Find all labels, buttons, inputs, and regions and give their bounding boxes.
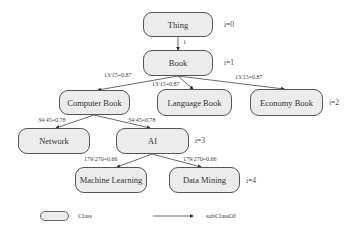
node-network: Network bbox=[18, 128, 90, 154]
node-label: Book bbox=[169, 58, 187, 68]
edge-label-book-economy: 13/15=0.87 bbox=[235, 74, 263, 80]
legend-class-swatch bbox=[40, 211, 69, 221]
node-label: Data Mining bbox=[183, 175, 226, 185]
node-data-mining: Data Mining bbox=[169, 167, 240, 193]
level-label-3: i=3 bbox=[195, 136, 205, 145]
edge-label-computer-network: 34/45=0.78 bbox=[38, 117, 66, 123]
level-label-0: i=0 bbox=[224, 20, 234, 29]
node-economy-book: Economy Book bbox=[250, 89, 323, 116]
legend-class-label: Class bbox=[78, 212, 92, 219]
level-label-1: i=1 bbox=[224, 58, 234, 67]
node-thing: Thing bbox=[143, 12, 213, 37]
node-computer-book: Computer Book bbox=[59, 90, 130, 115]
node-ai: AI bbox=[116, 128, 189, 154]
node-label: Economy Book bbox=[260, 98, 313, 108]
level-label-4: i=4 bbox=[246, 176, 256, 185]
node-label: Language Book bbox=[167, 98, 221, 108]
node-label: Thing bbox=[168, 20, 188, 30]
node-machine-learning: Machine Learning bbox=[75, 167, 147, 193]
node-language-book: Language Book bbox=[157, 89, 232, 116]
node-book: Book bbox=[143, 50, 213, 76]
level-label-2: i=2 bbox=[329, 98, 339, 107]
edge-label-computer-ai: 34/45=0.78 bbox=[128, 117, 156, 123]
edge-label-book-language: 13/15=0.87 bbox=[152, 81, 180, 87]
edge-label-ai-ml: 179/270=0.66 bbox=[84, 156, 118, 162]
legend-subclassof-label: subClassOf bbox=[206, 212, 236, 219]
node-label: Computer Book bbox=[67, 98, 122, 108]
edge-label-ai-dm: 179/270=0.66 bbox=[183, 156, 217, 162]
edge-label-book-computer: 13/15=0.87 bbox=[104, 72, 132, 78]
node-label: AI bbox=[148, 136, 157, 146]
edge-label-thing-book: 1 bbox=[183, 39, 186, 45]
node-label: Network bbox=[39, 136, 69, 146]
node-label: Machine Learning bbox=[80, 175, 143, 185]
